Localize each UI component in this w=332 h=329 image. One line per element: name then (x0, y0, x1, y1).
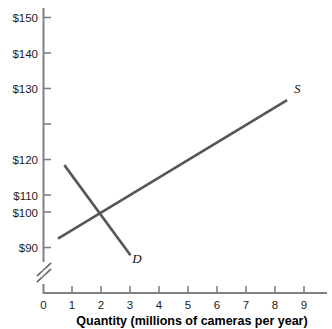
supply-curve-label: S (294, 81, 301, 96)
demand-curve (64, 165, 130, 255)
y-tick-labels-group: $150 $140 $130 $120 $110 $100 $90 (12, 12, 38, 254)
x-tick-label-7: 7 (243, 299, 249, 311)
y-tick-label-130: $130 (12, 83, 38, 95)
curve-labels-group: S D (131, 81, 301, 266)
axes-group (44, 8, 328, 294)
x-tick-label-2: 2 (98, 299, 104, 311)
x-tick-labels-group: 0 1 2 3 4 5 6 7 8 9 (40, 299, 307, 311)
x-tick-label-4: 4 (156, 299, 163, 311)
curves-group (58, 100, 287, 255)
x-tick-label-6: 6 (214, 299, 220, 311)
y-tick-label-120: $120 (12, 154, 38, 166)
x-ticks-group (72, 286, 304, 293)
y-tick-label-90: $90 (19, 242, 38, 254)
x-tick-label-1: 1 (69, 299, 75, 311)
demand-curve-label: D (131, 251, 142, 266)
y-axis-break-icon (37, 262, 51, 284)
y-tick-label-100: $100 (12, 207, 38, 219)
chart-canvas: $150 $140 $130 $120 $110 $100 $90 0 1 2 … (0, 0, 332, 329)
y-tick-label-150: $150 (12, 12, 38, 24)
y-tick-label-140: $140 (12, 48, 38, 60)
y-tick-label-110: $110 (13, 190, 38, 202)
x-tick-label-9: 9 (301, 299, 307, 311)
y-ticks-group (44, 18, 52, 248)
x-tick-label-8: 8 (272, 299, 278, 311)
supply-demand-chart: $150 $140 $130 $120 $110 $100 $90 0 1 2 … (0, 0, 332, 329)
x-tick-label-3: 3 (127, 299, 133, 311)
x-tick-label-0: 0 (40, 299, 46, 311)
x-axis-title: Quantity (millions of cameras per year) (76, 314, 307, 328)
x-tick-label-5: 5 (185, 299, 191, 311)
supply-curve (58, 100, 287, 238)
